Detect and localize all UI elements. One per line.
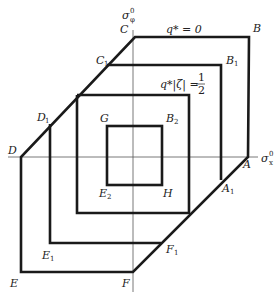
svg-text:B: B bbox=[165, 112, 174, 125]
outer-yield-surface-q0 bbox=[21, 37, 249, 272]
svg-text:E: E bbox=[98, 187, 107, 200]
svg-text:E: E bbox=[41, 249, 50, 262]
label-e: E bbox=[9, 277, 18, 290]
svg-text:1: 1 bbox=[45, 117, 49, 125]
svg-text:1: 1 bbox=[198, 71, 205, 84]
svg-text:x: x bbox=[269, 159, 273, 167]
label-e1: E 1 bbox=[41, 249, 54, 263]
svg-text:2: 2 bbox=[174, 118, 178, 126]
svg-text:A: A bbox=[221, 182, 230, 195]
vertical-axis-label: σ 0 φ bbox=[122, 7, 135, 24]
svg-text:σ: σ bbox=[122, 9, 130, 22]
label-f: F bbox=[121, 277, 130, 290]
svg-text:2: 2 bbox=[198, 84, 205, 97]
svg-text:0: 0 bbox=[269, 150, 273, 158]
contour-d1-e1-f1 bbox=[50, 124, 161, 243]
label-d1: D 1 bbox=[36, 111, 49, 125]
diagram-canvas: σ 0 φ σ 0 x q* = 0 q*|ζ| = 1 2 C B C 1 B… bbox=[0, 0, 277, 299]
label-h: H bbox=[162, 187, 173, 200]
svg-text:1: 1 bbox=[234, 60, 238, 68]
svg-text:1: 1 bbox=[174, 249, 178, 257]
label-b1: B 1 bbox=[225, 54, 238, 68]
label-e2: E 2 bbox=[98, 187, 111, 201]
label-b: B bbox=[252, 22, 261, 35]
label-c: C bbox=[120, 23, 129, 36]
svg-text:φ: φ bbox=[130, 16, 135, 24]
svg-text:1: 1 bbox=[104, 60, 108, 68]
label-d: D bbox=[7, 144, 17, 157]
svg-text:2: 2 bbox=[107, 193, 111, 201]
annotation-q-half: q*|ζ| = 1 2 bbox=[160, 71, 205, 97]
label-c1: C 1 bbox=[96, 54, 108, 68]
inner-square-g-b2-h-e2 bbox=[107, 126, 162, 185]
svg-text:0: 0 bbox=[130, 7, 134, 15]
label-a: A bbox=[242, 158, 251, 171]
annotation-q0: q* = 0 bbox=[166, 23, 202, 36]
svg-text:F: F bbox=[165, 243, 174, 256]
svg-text:q*|ζ| =: q*|ζ| = bbox=[160, 78, 199, 92]
horizontal-axis-label: σ 0 x bbox=[261, 150, 273, 167]
label-f1: F 1 bbox=[165, 243, 178, 257]
svg-text:1: 1 bbox=[230, 188, 234, 196]
svg-text:σ: σ bbox=[261, 152, 269, 165]
label-b2: B 2 bbox=[165, 112, 178, 126]
label-a1: A 1 bbox=[221, 182, 234, 196]
svg-text:1: 1 bbox=[50, 255, 54, 263]
label-g: G bbox=[100, 112, 109, 125]
svg-text:B: B bbox=[225, 54, 234, 67]
